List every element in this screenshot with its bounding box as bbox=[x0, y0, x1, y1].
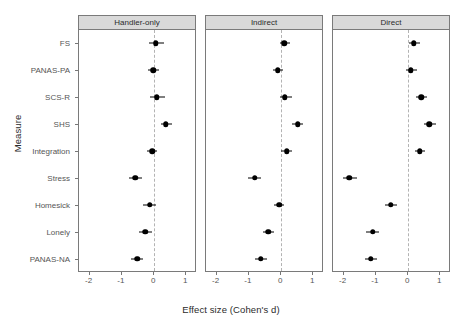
y-tick-mark bbox=[75, 259, 78, 260]
x-tick-mark bbox=[312, 272, 313, 275]
y-tick-label-scs-r: SCS-R bbox=[45, 93, 70, 102]
y-tick-mark bbox=[75, 97, 78, 98]
x-tick-mark bbox=[407, 272, 408, 275]
data-point-integration bbox=[417, 148, 423, 154]
x-tick-mark bbox=[280, 272, 281, 275]
x-tick-label: 0 bbox=[278, 276, 282, 285]
x-tick-label: -1 bbox=[371, 276, 378, 285]
forest-plot: FSPANAS-PASCS-RSHSIntegrationStressHomes… bbox=[0, 0, 462, 320]
panel-handler-only: Handler-only bbox=[78, 15, 196, 272]
data-point-fs bbox=[282, 41, 288, 47]
panel-strip-label: Indirect bbox=[205, 15, 323, 30]
y-tick-label-panas-pa: PANAS-PA bbox=[31, 66, 70, 75]
data-point-panas-pa bbox=[408, 68, 414, 74]
y-axis-title: Measure bbox=[12, 89, 23, 179]
panel-plot-area bbox=[78, 30, 196, 272]
x-axis-title: Effect size (Cohen's d) bbox=[0, 304, 462, 315]
y-tick-label-panas-na: PANAS-NA bbox=[30, 254, 70, 263]
data-point-homesick bbox=[276, 202, 282, 208]
data-point-stress bbox=[133, 175, 139, 181]
zero-reference-line bbox=[408, 30, 409, 271]
data-point-panas-na bbox=[134, 256, 140, 262]
x-tick-mark bbox=[439, 272, 440, 275]
x-tick-mark bbox=[153, 272, 154, 275]
data-point-panas-pa bbox=[275, 68, 281, 74]
y-tick-mark bbox=[75, 178, 78, 179]
x-tick-mark bbox=[375, 272, 376, 275]
data-point-lonely bbox=[370, 229, 376, 235]
data-point-scs-r bbox=[418, 94, 424, 100]
x-tick-label: -1 bbox=[117, 276, 124, 285]
data-point-stress bbox=[252, 175, 258, 181]
data-point-shs bbox=[163, 121, 169, 127]
x-tick-label: -1 bbox=[244, 276, 251, 285]
data-point-fs bbox=[411, 41, 417, 47]
y-tick-mark bbox=[75, 205, 78, 206]
y-tick-mark bbox=[75, 151, 78, 152]
data-point-panas-na bbox=[368, 256, 374, 262]
data-point-homesick bbox=[147, 202, 153, 208]
data-point-panas-na bbox=[258, 256, 264, 262]
data-point-panas-pa bbox=[150, 68, 156, 74]
data-point-scs-r bbox=[282, 94, 288, 100]
x-tick-label: 1 bbox=[183, 276, 187, 285]
panel-strip-label: Direct bbox=[332, 15, 450, 30]
x-tick-mark bbox=[185, 272, 186, 275]
panel-plot-area bbox=[205, 30, 323, 272]
x-tick-label: 0 bbox=[151, 276, 155, 285]
y-tick-label-integration: Integration bbox=[32, 147, 70, 156]
y-tick-mark bbox=[75, 43, 78, 44]
data-point-lonely bbox=[142, 229, 148, 235]
y-tick-mark bbox=[75, 70, 78, 71]
x-tick-label: -2 bbox=[212, 276, 219, 285]
y-tick-label-stress: Stress bbox=[47, 173, 70, 182]
y-tick-label-lonely: Lonely bbox=[46, 227, 70, 236]
panel-plot-area bbox=[332, 30, 450, 272]
y-tick-mark bbox=[75, 232, 78, 233]
x-tick-label: 1 bbox=[310, 276, 314, 285]
x-tick-label: 1 bbox=[437, 276, 441, 285]
y-tick-label-homesick: Homesick bbox=[35, 200, 70, 209]
y-tick-label-shs: SHS bbox=[54, 120, 70, 129]
y-tick-mark bbox=[75, 124, 78, 125]
data-point-integration bbox=[284, 148, 290, 154]
panel-direct: Direct bbox=[332, 15, 450, 272]
x-tick-label: -2 bbox=[85, 276, 92, 285]
x-tick-mark bbox=[216, 272, 217, 275]
x-tick-label: 0 bbox=[405, 276, 409, 285]
data-point-shs bbox=[427, 121, 433, 127]
panel-strip-label: Handler-only bbox=[78, 15, 196, 30]
data-point-fs bbox=[153, 41, 159, 47]
x-tick-mark bbox=[343, 272, 344, 275]
data-point-stress bbox=[347, 175, 353, 181]
panel-indirect: Indirect bbox=[205, 15, 323, 272]
x-tick-mark bbox=[248, 272, 249, 275]
x-tick-mark bbox=[121, 272, 122, 275]
data-point-homesick bbox=[388, 202, 394, 208]
data-point-shs bbox=[295, 121, 301, 127]
data-point-lonely bbox=[265, 229, 271, 235]
data-point-integration bbox=[149, 148, 155, 154]
data-point-scs-r bbox=[154, 94, 160, 100]
y-tick-label-fs: FS bbox=[60, 39, 70, 48]
x-tick-label: -2 bbox=[339, 276, 346, 285]
x-tick-mark bbox=[89, 272, 90, 275]
